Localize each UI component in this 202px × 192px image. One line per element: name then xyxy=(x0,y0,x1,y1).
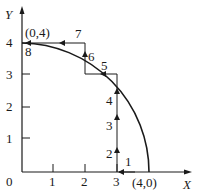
y-tick-label-2: 2 xyxy=(6,99,13,114)
y-tick-label-4: 4 xyxy=(6,35,13,50)
y-tick-label-1: 1 xyxy=(6,131,13,146)
step-label-1: 1 xyxy=(125,154,132,169)
step-label-7: 7 xyxy=(75,26,82,41)
interpolation-diagram: Y X 0 4 3 2 1 1 2 3 (4,0) (0,4) 1 2 3 4 … xyxy=(0,0,202,192)
y-axis-label: Y xyxy=(5,7,14,22)
origin-label: 0 xyxy=(6,174,13,189)
x-tick-label-2: 2 xyxy=(81,174,88,189)
diagram-canvas: Y X 0 4 3 2 1 1 2 3 (4,0) (0,4) 1 2 3 4 … xyxy=(0,0,202,192)
y-tick-label-3: 3 xyxy=(6,67,13,82)
point-label-end: (0,4) xyxy=(25,25,50,40)
step-label-4: 4 xyxy=(106,93,113,108)
step-label-5: 5 xyxy=(101,58,108,73)
y-axis-arrow-icon xyxy=(20,6,25,14)
step-label-2: 2 xyxy=(106,146,113,161)
step-label-3: 3 xyxy=(106,118,113,133)
step-label-6: 6 xyxy=(88,49,95,64)
x-axis-label: X xyxy=(182,177,192,192)
x-tick-label-3: 3 xyxy=(113,174,120,189)
x-axis-arrow-icon xyxy=(184,170,192,175)
x-tick-label-1: 1 xyxy=(49,174,56,189)
step-label-8: 8 xyxy=(25,44,32,59)
point-label-start: (4,0) xyxy=(132,175,157,190)
